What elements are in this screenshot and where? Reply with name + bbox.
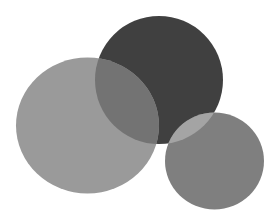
illustration-canvas	[0, 0, 280, 217]
overlapping-circles-graphic	[0, 0, 280, 217]
